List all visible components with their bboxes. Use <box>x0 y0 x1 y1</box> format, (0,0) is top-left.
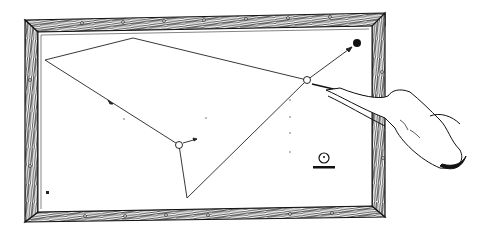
billiards-illustration <box>0 0 494 237</box>
cue-ball <box>304 77 311 84</box>
second-ball <box>176 142 183 149</box>
corner-mark <box>46 191 49 194</box>
object-ball-dark <box>353 39 361 47</box>
table-drawing <box>0 0 494 237</box>
table-rails <box>25 13 385 222</box>
